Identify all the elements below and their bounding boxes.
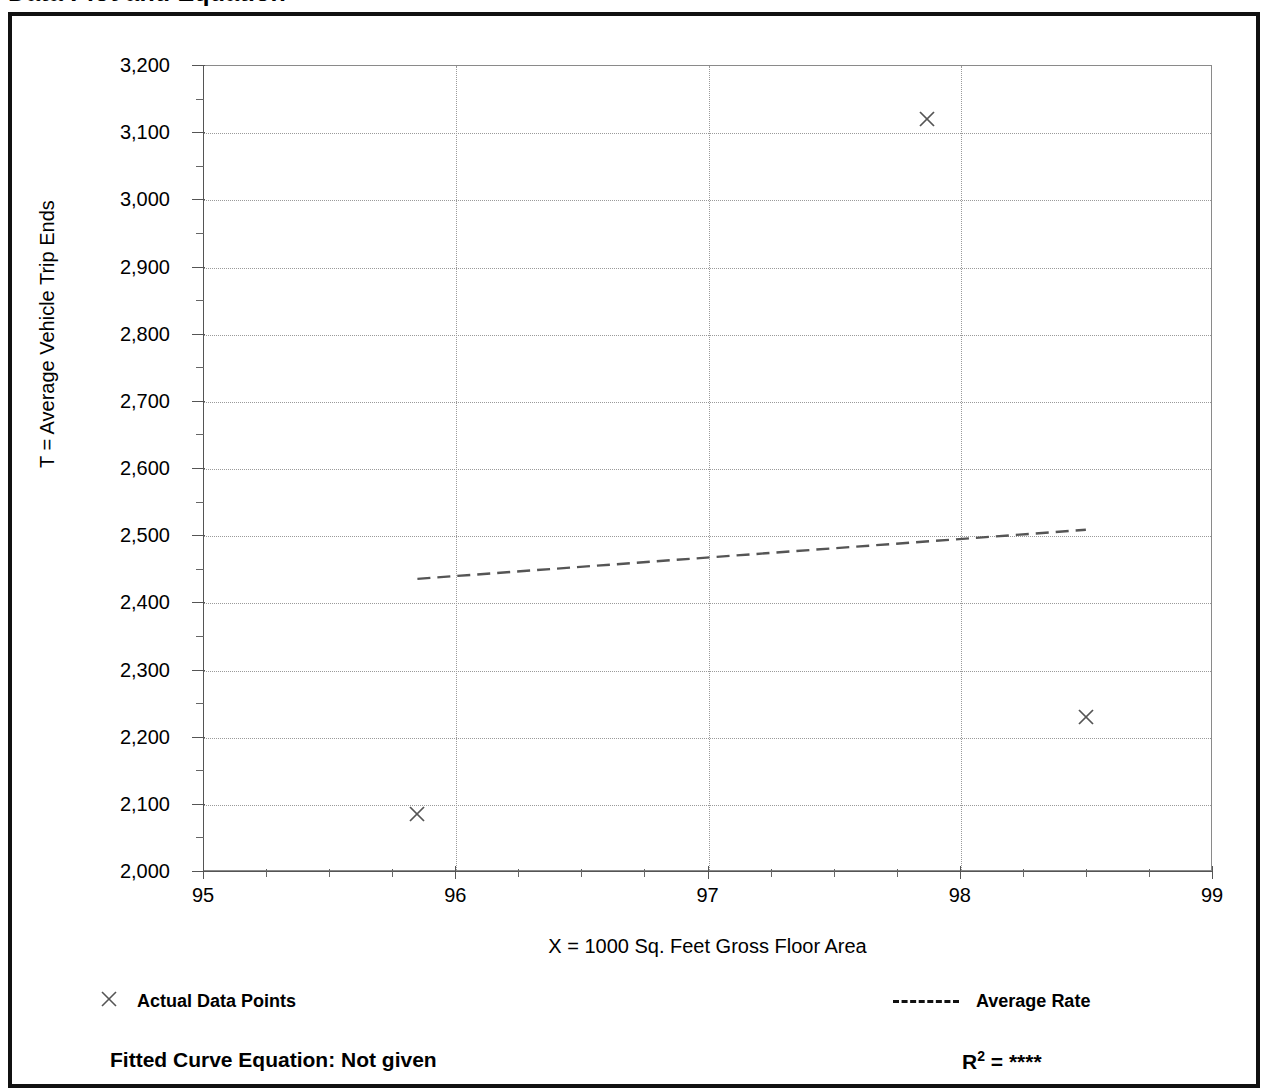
y-axis-title: T = Average Vehicle Trip Ends	[36, 200, 59, 468]
fitted-curve-equation: Fitted Curve Equation: Not given	[110, 1048, 437, 1072]
x-axis-title: X = 1000 Sq. Feet Gross Floor Area	[203, 935, 1212, 958]
chart-legend: Actual Data Points Average Rate	[0, 986, 1276, 1016]
chart-region: 2,0002,1002,2002,3002,4002,5002,6002,700…	[0, 0, 1276, 1090]
r-squared-exponent: 2	[977, 1048, 985, 1064]
data-point-marker	[407, 804, 427, 824]
chart-footer: Fitted Curve Equation: Not given R2 = **…	[0, 1048, 1276, 1078]
legend-label-average-rate: Average Rate	[976, 991, 1090, 1012]
data-point-marker	[917, 109, 937, 129]
legend-label-actual-data-points: Actual Data Points	[137, 991, 296, 1012]
legend-item-actual-data-points: Actual Data Points	[98, 986, 296, 1016]
r-squared-annotation: R2 = ****	[962, 1048, 1042, 1074]
r-squared-label: R	[962, 1050, 977, 1073]
dashed-line-icon	[893, 1000, 959, 1003]
average-rate-trendline	[0, 0, 1276, 1090]
r-squared-value: = ****	[991, 1050, 1042, 1073]
legend-item-average-rate: Average Rate	[893, 986, 1090, 1016]
x-marker-icon	[98, 988, 120, 1014]
data-point-marker	[1076, 707, 1096, 727]
